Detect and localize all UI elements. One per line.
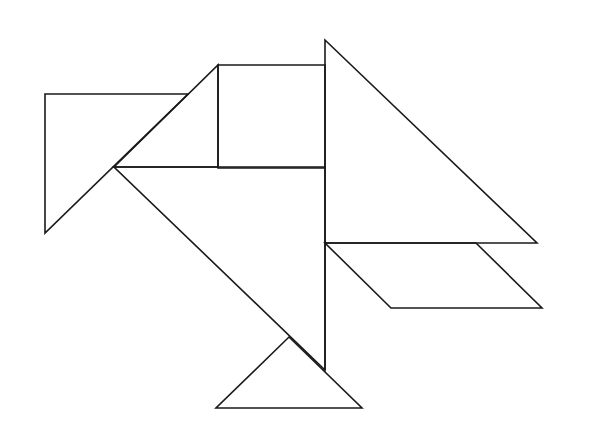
bottom-triangle (216, 337, 362, 408)
large-triangle-right (325, 40, 537, 243)
large-triangle-body (114, 167, 325, 370)
tangram-figure (0, 0, 591, 435)
beak-small-triangle (114, 65, 218, 167)
tangram-pieces (45, 40, 542, 408)
square (218, 65, 325, 168)
parallelogram (325, 243, 542, 308)
